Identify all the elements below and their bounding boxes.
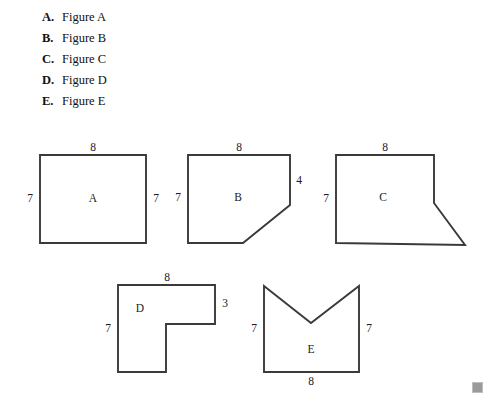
figure-b-letter: B [234, 191, 242, 203]
figure-c-group: C 8 7 [323, 141, 465, 245]
figure-e-outline [264, 286, 359, 372]
figure-e-bottom-dimension: 8 [308, 375, 314, 387]
figure-b-group: B 8 7 4 [175, 141, 302, 243]
figure-c-top-dimension: 8 [382, 141, 388, 153]
figure-b-right-dimension: 4 [296, 174, 302, 186]
figure-a-right-dimension: 7 [153, 192, 159, 204]
figure-e-group: E 8 7 7 [251, 286, 372, 387]
figure-a-letter: A [89, 192, 98, 204]
figure-c-left-dimension: 7 [323, 192, 329, 204]
figure-c-letter: C [379, 191, 387, 203]
figure-diagram-area: A 8 7 7 B 8 7 4 C 8 7 D 8 7 3 [0, 0, 489, 402]
figure-d-left-dimension: 7 [105, 322, 111, 334]
figure-d-letter: D [136, 302, 144, 314]
figure-e-right-dimension: 7 [366, 322, 372, 334]
page-corner-marker [472, 382, 483, 393]
figure-a-left-dimension: 7 [27, 192, 33, 204]
figure-e-letter: E [307, 343, 314, 355]
figure-a-top-dimension: 8 [90, 141, 96, 153]
figure-c-outline [336, 155, 465, 245]
figure-e-left-dimension: 7 [251, 322, 257, 334]
figure-d-top-dimension: 8 [164, 271, 170, 283]
figure-b-left-dimension: 7 [175, 191, 181, 203]
figure-a-group: A 8 7 7 [27, 141, 159, 243]
figure-b-top-dimension: 8 [236, 141, 242, 153]
figure-d-outline [118, 285, 215, 372]
figure-d-right-dimension: 3 [222, 297, 228, 309]
figure-d-group: D 8 7 3 [105, 271, 228, 372]
